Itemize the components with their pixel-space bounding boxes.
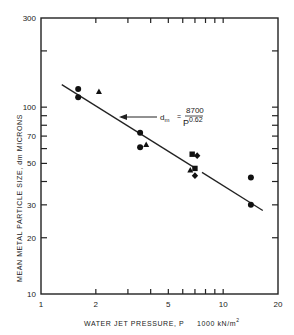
- x-tick-label: 20: [274, 300, 283, 309]
- y-tick-label: 10: [27, 290, 36, 299]
- axis-ticks: [41, 18, 278, 294]
- y-axis-title: MEAN METAL PARTICLE SIZE, dm MICRONS: [16, 114, 23, 282]
- circle-marker-icon: [75, 86, 81, 92]
- log-log-chart: 12510201020305070100300 dm = 8700 P0.62 …: [0, 0, 294, 335]
- y-tick-label: 300: [23, 14, 37, 23]
- axis-tick-labels: 12510201020305070100300: [23, 14, 283, 309]
- diamond-marker-icon: [192, 172, 198, 179]
- arrow-head-icon: [119, 114, 127, 120]
- diamond-marker-icon: [194, 152, 200, 159]
- x-axis-title: WATER JET PRESSURE, P: [84, 320, 184, 327]
- triangle-marker-icon: [143, 141, 149, 147]
- equation-lhs: dm: [160, 113, 169, 123]
- x-tick-label: 10: [219, 300, 228, 309]
- fit-line-segment: [62, 85, 196, 169]
- equation-equals: =: [177, 113, 181, 120]
- x-axis-units: 1000 kN/m2: [197, 317, 240, 327]
- y-tick-label: 100: [23, 103, 37, 112]
- equation-annotation: dm = 8700 P0.62: [119, 106, 204, 128]
- circle-marker-icon: [137, 144, 143, 150]
- y-tick-label: 50: [27, 159, 36, 168]
- fit-line: [62, 85, 263, 211]
- x-tick-label: 5: [166, 300, 171, 309]
- equation-numerator: 8700: [186, 106, 204, 115]
- circle-marker-icon: [248, 175, 254, 181]
- plot-border: [41, 18, 278, 294]
- y-tick-label: 70: [27, 132, 36, 141]
- equation-denominator: P0.62: [183, 116, 203, 128]
- circle-marker-icon: [75, 94, 81, 100]
- triangle-marker-icon: [96, 88, 102, 94]
- data-points: [75, 86, 254, 208]
- square-marker-icon: [189, 152, 194, 157]
- x-tick-label: 1: [39, 300, 44, 309]
- y-tick-label: 30: [27, 201, 36, 210]
- circle-marker-icon: [137, 130, 143, 136]
- plot-frame: [41, 18, 278, 294]
- y-tick-label: 20: [27, 234, 36, 243]
- circle-marker-icon: [248, 202, 254, 208]
- square-marker-icon: [192, 166, 197, 171]
- x-tick-label: 2: [94, 300, 99, 309]
